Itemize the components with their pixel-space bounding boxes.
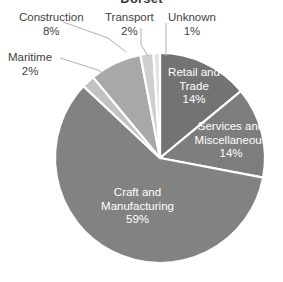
slice-label-retail-value: 14% [155,93,233,107]
slice-label-services-line2: Miscellaneous [172,134,283,148]
slice-label-unknown-value: 1% [168,25,216,39]
slice-label-transport-value: 2% [105,25,154,39]
slice-label-services-line1: Services and [198,120,264,132]
slice-label-maritime-name: Maritime [8,51,52,63]
slice-label-craft-line2: Manufacturing [80,200,195,214]
slice-label-transport-name: Transport [105,11,154,23]
slice-label-retail-and-trade: Retail and Trade 14% [155,66,233,107]
slice-label-construction-value: 8% [19,25,84,39]
slice-label-maritime: Maritime 2% [8,51,52,78]
slice-label-retail-line2: Trade [155,80,233,94]
slice-label-transport: Transport 2% [105,11,154,38]
slice-label-unknown-name: Unknown [168,11,216,23]
slice-label-retail-line1: Retail and [168,66,220,78]
slice-label-services-and-miscellaneous: Services and Miscellaneous 14% [172,120,283,161]
slice-label-construction: Construction 8% [19,11,84,38]
slice-label-services-value: 14% [172,147,283,161]
slice-label-construction-name: Construction [19,11,84,23]
slice-label-maritime-value: 2% [8,65,52,79]
slice-label-craft-and-manufacturing: Craft and Manufacturing 59% [80,186,195,227]
slice-label-craft-value: 59% [80,213,195,227]
slice-label-craft-line1: Craft and [114,186,161,198]
slice-label-unknown: Unknown 1% [168,11,216,38]
pie-chart-figure: Dorset Construction 8% Maritime 2% Trans… [0,0,283,282]
